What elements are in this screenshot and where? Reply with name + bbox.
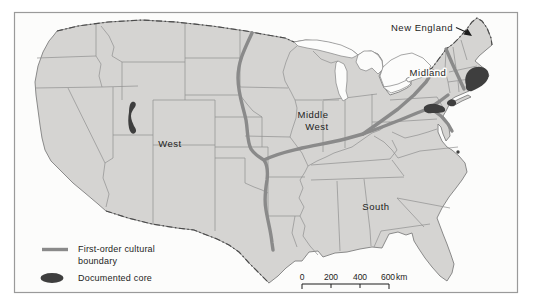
core-chesapeake-tidewater <box>456 150 459 153</box>
region-label-south: South <box>362 201 389 212</box>
region-label-new-england: New England <box>391 22 453 33</box>
scale-tick-label-600: 600 <box>381 272 395 282</box>
scale-tick-label-200: 200 <box>324 272 338 282</box>
scale-unit-label: km <box>396 272 407 282</box>
legend-core-label: Documented core <box>78 273 152 283</box>
us-cultural-regions-map: New England Midland MiddleWest West Sout… <box>0 0 543 306</box>
region-label-midland: Midland <box>410 67 447 78</box>
legend-core-swatch <box>41 273 64 283</box>
scale-tick-label-400: 400 <box>353 272 367 282</box>
legend-boundary-label-line2: boundary <box>78 256 117 266</box>
region-label-west: West <box>158 138 181 149</box>
legend-boundary-label-line1: First-order cultural <box>78 244 155 254</box>
scale-tick-label-0: 0 <box>300 272 305 282</box>
map-canvas: New England Midland MiddleWest West Sout… <box>0 0 543 306</box>
